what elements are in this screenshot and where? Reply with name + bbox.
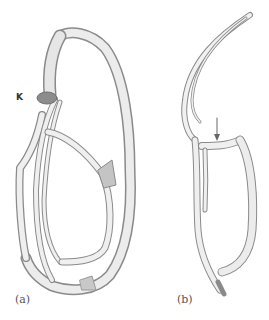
k-structure bbox=[37, 92, 57, 104]
panel-label-a: (a) bbox=[15, 293, 30, 306]
panel-b-structure bbox=[184, 15, 252, 294]
panel-label-b: (b) bbox=[177, 293, 193, 306]
tube-structure-illustration bbox=[0, 0, 269, 320]
panel-a-structure bbox=[19, 33, 130, 290]
k-label: K bbox=[16, 92, 23, 102]
figure: K (a) (b) bbox=[0, 0, 269, 320]
down-arrow-icon bbox=[214, 118, 220, 141]
